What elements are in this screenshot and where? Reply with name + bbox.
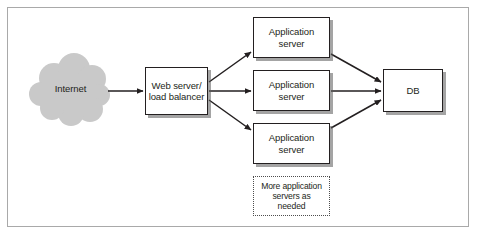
node-application-server-1[interactable]: Application server: [253, 17, 330, 58]
node-more-servers-note-label: More application servers as needed: [259, 181, 324, 212]
node-application-server-3-label: Application server: [267, 132, 316, 155]
diagram-connectors-layer: [0, 0, 477, 235]
node-application-server-1-label: Application server: [267, 26, 316, 49]
edge-app1-to-db: [331, 54, 381, 82]
diagram-canvas: Internet Web server/ load balancer Appli…: [0, 0, 477, 235]
node-database-label: DB: [405, 85, 422, 97]
node-more-servers-note: More application servers as needed: [253, 176, 330, 216]
internet-cloud-label: Internet: [33, 83, 108, 94]
edge-webserver-to-app1: [209, 52, 251, 82]
node-application-server-3[interactable]: Application server: [253, 123, 330, 164]
edge-webserver-to-app3: [209, 100, 251, 130]
node-application-server-2-label: Application server: [267, 79, 316, 102]
node-web-server-label: Web server/ load balancer: [147, 80, 207, 103]
node-database[interactable]: DB: [383, 69, 443, 112]
edge-app3-to-db: [331, 100, 381, 128]
node-application-server-2[interactable]: Application server: [253, 70, 330, 111]
node-web-server[interactable]: Web server/ load balancer: [145, 67, 208, 115]
